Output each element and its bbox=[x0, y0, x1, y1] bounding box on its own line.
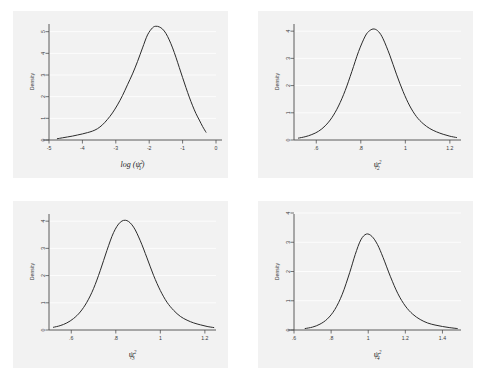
panel-1-xtick-label: 0 bbox=[215, 145, 218, 151]
panel-2-xtick-label: 1.2 bbox=[446, 145, 453, 151]
panel-2-ytick-label: 2 bbox=[285, 84, 291, 87]
panel-4-ytick-label: 4 bbox=[285, 211, 291, 214]
panel-2-canvas: 01234Density.6.811.2ψ22 bbox=[258, 11, 473, 178]
panel-1-y-axis-title: Density bbox=[29, 72, 35, 90]
panel-2-ytick-label: 1 bbox=[285, 111, 291, 114]
panel-4-ytick-label: 3 bbox=[285, 241, 291, 244]
panel-4-xtick-label: .8 bbox=[329, 335, 333, 341]
panel-2-xtick-label: .8 bbox=[359, 145, 363, 151]
panel-3-ytick-label: 2 bbox=[40, 274, 46, 277]
panel-1-xtick-label: -2 bbox=[147, 145, 152, 151]
panel-3-xtick-label: 1.2 bbox=[201, 335, 208, 341]
panel-3-ytick-label: 0 bbox=[40, 328, 46, 331]
panel-4-xtick-label: 1.2 bbox=[402, 335, 409, 341]
panel-3-xtick-label: 1 bbox=[159, 335, 162, 341]
panel-1-xtick-label: -4 bbox=[80, 145, 85, 151]
panel-2-ytick-label: 0 bbox=[285, 138, 291, 141]
panel-3-ytick-label: 1 bbox=[40, 301, 46, 304]
panel-2-ytick-label: 3 bbox=[285, 57, 291, 60]
panel-3-xtick-label: .8 bbox=[114, 335, 118, 341]
panel-1-ytick-label: 4 bbox=[40, 52, 46, 55]
density-panel-4: 01234Density.6.811.21.4ψ24 bbox=[258, 201, 473, 368]
panel-3-canvas: 01234Density.6.811.2ψ23 bbox=[13, 201, 228, 368]
panel-1-canvas: 012345Density-5-4-3-2-10log (ψ21) bbox=[13, 11, 228, 178]
panel-4-xtick-label: .6 bbox=[292, 335, 296, 341]
panel-2-y-axis-title: Density bbox=[274, 72, 280, 90]
panel-4-ytick-label: 1 bbox=[285, 299, 291, 302]
panel-2-xtick-label: 1 bbox=[404, 145, 407, 151]
panel-4-ytick-label: 2 bbox=[285, 270, 291, 273]
panel-1-ytick-label: 5 bbox=[40, 30, 46, 33]
panel-4-xtick-label: 1.4 bbox=[439, 335, 446, 341]
panel-1-xtick-label: -3 bbox=[113, 145, 118, 151]
panel-1-ytick-label: 3 bbox=[40, 73, 46, 76]
density-plot-figure: 012345Density-5-4-3-2-10log (ψ21) 01234D… bbox=[0, 0, 489, 379]
panel-3-ytick-label: 3 bbox=[40, 247, 46, 250]
panel-2-ytick-label: 4 bbox=[285, 30, 291, 33]
panel-4-xtick-label: 1 bbox=[367, 335, 370, 341]
panel-3-xtick-label: .6 bbox=[69, 335, 73, 341]
panel-1-xtick-label: -1 bbox=[180, 145, 185, 151]
panel-4-y-axis-title: Density bbox=[274, 262, 280, 280]
density-panel-1: 012345Density-5-4-3-2-10log (ψ21) bbox=[13, 11, 228, 178]
panel-3-y-axis-title: Density bbox=[29, 262, 35, 280]
panel-4-canvas: 01234Density.6.811.21.4ψ24 bbox=[258, 201, 473, 368]
panel-1-ytick-label: 1 bbox=[40, 117, 46, 120]
density-panel-3: 01234Density.6.811.2ψ23 bbox=[13, 201, 228, 368]
panel-2-xtick-label: .6 bbox=[314, 145, 318, 151]
panel-1-ytick-label: 2 bbox=[40, 95, 46, 98]
panel-1-xtick-label: -5 bbox=[47, 145, 52, 151]
panel-3-ytick-label: 4 bbox=[40, 220, 46, 223]
density-panel-2: 01234Density.6.811.2ψ22 bbox=[258, 11, 473, 178]
